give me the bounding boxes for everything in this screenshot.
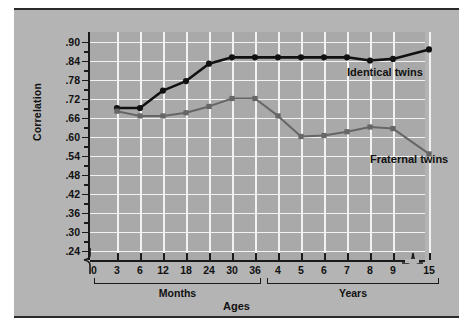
chart-screenshot: .90.84.78.72.66.60.54.48.42.36.30.24 Cor…: [0, 0, 473, 334]
data-point: [298, 54, 304, 60]
x-axis-tick: [255, 253, 257, 260]
x-axis-tick: [232, 253, 234, 260]
y-axis-break-icon: [80, 248, 100, 278]
y-axis-tick: [82, 80, 89, 82]
x-axis-tick-label: 7: [335, 264, 359, 276]
y-axis-tick: [82, 194, 89, 196]
x-axis-tick: [209, 253, 211, 260]
y-axis-minor-tick: [84, 184, 89, 186]
data-point: [137, 113, 142, 118]
y-axis-tick: [82, 175, 89, 177]
data-point: [390, 56, 396, 62]
y-axis-minor-tick: [84, 70, 89, 72]
data-point: [160, 87, 166, 93]
data-point: [321, 54, 327, 60]
data-point: [229, 96, 234, 101]
x-axis-break-mask: [405, 259, 419, 263]
x-axis-tick-label: 12: [151, 264, 175, 276]
x-group-years-label: Years: [267, 287, 439, 299]
data-point: [137, 105, 143, 111]
y-axis-tick: [82, 118, 89, 120]
y-axis-tick-label: .36: [52, 208, 80, 218]
data-point: [183, 78, 189, 84]
y-axis-tick-label: .42: [52, 189, 80, 199]
y-axis-tick-label: .84: [52, 56, 80, 66]
x-axis-tick-label: 18: [174, 264, 198, 276]
x-axis-spine: [90, 260, 425, 262]
x-axis-tick: [393, 253, 395, 260]
y-axis-tick: [82, 213, 89, 215]
x-axis-tick-label: 6: [128, 264, 152, 276]
data-point: [183, 110, 188, 115]
series-line-identical: [117, 49, 429, 108]
x-group-years-bracket: [267, 278, 439, 284]
data-point: [252, 54, 258, 60]
data-point: [321, 133, 326, 138]
x-axis-tick-label: 30: [220, 264, 244, 276]
y-axis-tick-label: .66: [52, 113, 80, 123]
x-axis-tick: [370, 253, 372, 260]
y-axis-tick-label: .48: [52, 170, 80, 180]
x-axis-tick: [278, 253, 280, 260]
data-point: [206, 61, 212, 67]
data-point: [275, 113, 280, 118]
data-point: [426, 46, 432, 52]
y-axis-tick: [82, 156, 89, 158]
y-axis-tick: [82, 61, 89, 63]
x-axis-tick: [186, 253, 188, 260]
y-axis-minor-tick: [84, 203, 89, 205]
y-axis-minor-tick: [84, 127, 89, 129]
y-axis-tick: [82, 42, 89, 44]
data-point: [390, 126, 395, 131]
y-axis-tick-label: .54: [52, 151, 80, 161]
y-axis-minor-tick: [84, 51, 89, 53]
x-axis-tick-label: 3: [105, 264, 129, 276]
data-point: [275, 54, 281, 60]
x-axis-tick-label: 36: [243, 264, 267, 276]
x-axis-tick-label: 8: [358, 264, 382, 276]
y-axis-minor-tick: [84, 241, 89, 243]
data-point: [344, 129, 349, 134]
x-axis-title: Ages: [14, 300, 459, 312]
data-point: [252, 96, 257, 101]
x-axis-tick: [117, 253, 119, 260]
x-axis-tick: [301, 253, 303, 260]
y-axis-tick-label: .72: [52, 94, 80, 104]
x-group-months-bracket: [94, 278, 261, 284]
y-axis-tick: [82, 137, 89, 139]
x-group-months-label: Months: [94, 287, 261, 299]
data-point: [160, 113, 165, 118]
x-axis-tick-label: 4: [266, 264, 290, 276]
gridline-vertical: [429, 32, 431, 260]
x-axis-tick: [163, 253, 165, 260]
y-axis-tick-label: .30: [52, 227, 80, 237]
figure-panel: .90.84.78.72.66.60.54.48.42.36.30.24 Cor…: [14, 8, 459, 318]
y-axis-tick-label: .90: [52, 37, 80, 47]
data-point: [367, 57, 373, 63]
data-point: [344, 54, 350, 60]
y-axis-tick: [82, 99, 89, 101]
series-label-identical-twins: Identical twins: [347, 66, 423, 78]
x-axis-tick-label: 6: [312, 264, 336, 276]
x-axis-tick-label: 24: [197, 264, 221, 276]
y-axis-tick-label: .78: [52, 75, 80, 85]
data-point: [114, 109, 119, 114]
y-axis-tick-labels: .90.84.78.72.66.60.54.48.42.36.30.24: [50, 10, 80, 320]
x-axis-tick-label: 5: [289, 264, 313, 276]
x-axis-tick: [429, 253, 431, 260]
series-label-fraternal-twins: Fraternal twins: [370, 153, 448, 165]
series-line-fraternal: [117, 99, 429, 154]
data-point: [298, 134, 303, 139]
y-axis-tick-label: .24: [52, 246, 80, 256]
x-axis-tick: [324, 253, 326, 260]
data-point: [367, 124, 372, 129]
y-axis-minor-tick: [84, 146, 89, 148]
y-axis-tick-label: .60: [52, 132, 80, 142]
y-axis-title: Correlation: [31, 67, 43, 157]
y-axis-minor-tick: [84, 222, 89, 224]
data-point: [206, 104, 211, 109]
data-point: [229, 54, 235, 60]
y-axis-tick: [82, 232, 89, 234]
x-axis-tick: [140, 253, 142, 260]
y-axis-minor-tick: [84, 165, 89, 167]
